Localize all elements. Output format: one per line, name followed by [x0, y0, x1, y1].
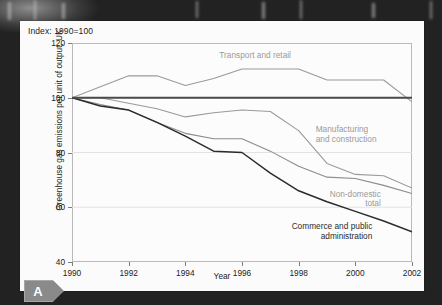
- y-tick-mark: [68, 43, 72, 44]
- x-tick-label: 1990: [49, 268, 95, 278]
- y-tick-label: 120: [25, 38, 65, 48]
- y-tick-mark: [68, 153, 72, 154]
- x-tick-label: 1992: [106, 268, 152, 278]
- series-line: [72, 98, 412, 194]
- y-tick-label: 100: [25, 93, 65, 103]
- series-annotation: and construction: [316, 134, 377, 144]
- y-tick-label: 40: [25, 257, 65, 267]
- x-tick-mark: [412, 262, 413, 266]
- x-tick-label: 2000: [332, 268, 378, 278]
- x-tick-mark: [129, 262, 130, 266]
- x-tick-label: 2002: [389, 268, 435, 278]
- y-tick-label: 80: [25, 148, 65, 158]
- series-annotation: Transport and retail: [219, 50, 291, 60]
- x-tick-mark: [355, 262, 356, 266]
- x-tick-mark: [299, 262, 300, 266]
- x-tick-label: 1996: [219, 268, 265, 278]
- series-annotation: Commerce and public: [20, 221, 372, 231]
- series-annotation: administration: [20, 231, 372, 241]
- series-annotation: Non-domestic: [20, 189, 381, 199]
- series-annotation: Manufacturing: [316, 124, 369, 134]
- series-annotation: total: [20, 198, 381, 208]
- badge-letter: A: [24, 280, 52, 302]
- x-tick-mark: [242, 262, 243, 266]
- x-tick-label: 1994: [162, 268, 208, 278]
- x-tick-mark: [185, 262, 186, 266]
- x-tick-label: 1998: [276, 268, 322, 278]
- chart-card: Index: 1990=100 Greenhouse gas emissions…: [20, 21, 424, 291]
- section-badge[interactable]: A: [24, 280, 64, 302]
- series-line: [72, 98, 412, 232]
- x-tick-mark: [72, 262, 73, 266]
- y-tick-mark: [68, 98, 72, 99]
